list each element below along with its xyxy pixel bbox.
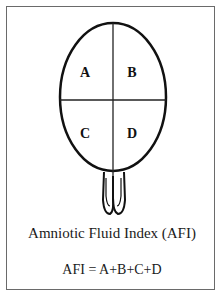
uterus-quadrant-diagram: A B C D [0, 0, 224, 299]
quadrant-d-label: D [127, 126, 137, 141]
afi-formula: AFI = A+B+C+D [0, 262, 224, 278]
quadrant-c-label: C [80, 126, 90, 141]
quadrant-b-label: B [127, 65, 136, 80]
quadrant-a-label: A [80, 65, 91, 80]
legs-icon [103, 172, 125, 214]
diagram-title: Amniotic Fluid Index (AFI) [0, 225, 224, 242]
